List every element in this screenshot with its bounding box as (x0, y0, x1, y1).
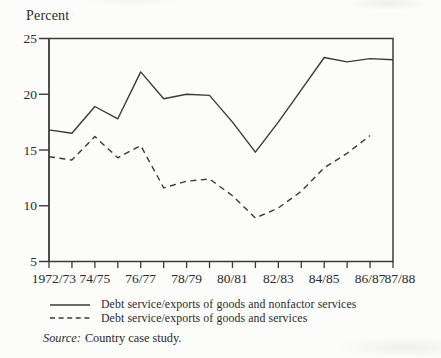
y-tick-label: 5 (30, 254, 37, 269)
x-tick-label: 87/88 (385, 271, 416, 286)
y-tick-label: 25 (24, 31, 38, 46)
x-tick-label: 76/77 (125, 271, 156, 286)
solid-line-swatch (49, 300, 94, 310)
source-note: Source: Country case study. (43, 331, 181, 346)
legend-item-goods-services: Debt service/exports of goods and servic… (49, 312, 356, 326)
line-plot: 5101520251972/7374/7576/7778/7980/8182/8… (0, 0, 441, 294)
legend-label-goods-services: Debt service/exports of goods and servic… (101, 311, 307, 326)
source-text: Country case study. (85, 331, 182, 345)
x-tick-label: 1972/73 (32, 271, 77, 286)
source-prefix: Source: (43, 331, 81, 345)
x-tick-label: 84/85 (309, 271, 340, 286)
x-tick-label: 74/75 (79, 271, 110, 286)
dashed-line-swatch (49, 313, 94, 323)
y-tick-label: 15 (24, 143, 38, 158)
legend-item-nonfactor-services: Debt service/exports of goods and nonfac… (49, 298, 356, 312)
series-line-nonfactor-services (49, 58, 393, 153)
debt-service-chart-figure: Percent 5101520251972/7374/7576/7778/798… (0, 0, 441, 358)
plot-frame (39, 39, 393, 262)
x-tick-label: 82/83 (263, 271, 294, 286)
x-tick-label: 78/79 (171, 271, 202, 286)
x-tick-label: 86/87 (355, 271, 386, 286)
x-tick-label: 80/81 (217, 271, 248, 286)
legend: Debt service/exports of goods and nonfac… (49, 298, 356, 325)
series-line-goods-services (49, 136, 370, 219)
y-tick-label: 10 (24, 198, 38, 213)
y-tick-label: 20 (24, 87, 38, 102)
